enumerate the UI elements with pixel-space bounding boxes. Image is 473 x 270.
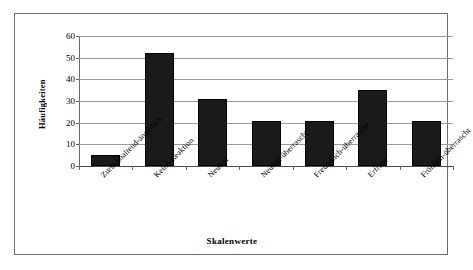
x-tick-mark: [132, 166, 133, 170]
bar: [145, 53, 174, 166]
y-tick-mark: [76, 123, 79, 124]
gridline: [79, 79, 453, 80]
x-tick-mark: [79, 166, 80, 170]
x-tick-mark: [239, 166, 240, 170]
y-tick-mark: [76, 144, 79, 145]
y-tick-mark: [76, 101, 79, 102]
y-tick-label: 10: [66, 140, 75, 149]
y-tick-label: 50: [66, 53, 75, 62]
x-axis-title: Skalenwerte: [15, 236, 449, 246]
x-tick-mark: [186, 166, 187, 170]
x-tick-mark: [293, 166, 294, 170]
y-tick-label: 60: [66, 32, 75, 41]
gridline: [79, 36, 453, 37]
gridline: [79, 58, 453, 59]
x-tick-mark: [346, 166, 347, 170]
chart-figure: Häufigkeiten 0102030405060 Zurückhaltend…: [14, 13, 448, 255]
y-tick-mark: [76, 36, 79, 37]
x-tick-mark: [453, 166, 454, 170]
y-tick-label: 20: [66, 118, 75, 127]
y-axis-title: Häufigkeiten: [35, 64, 49, 144]
y-tick-label: 0: [71, 162, 76, 171]
y-tick-mark: [76, 79, 79, 80]
x-tick-mark: [400, 166, 401, 170]
y-tick-mark: [76, 58, 79, 59]
y-tick-label: 30: [66, 97, 75, 106]
gridline: [79, 101, 453, 102]
y-tick-label: 40: [66, 75, 75, 84]
